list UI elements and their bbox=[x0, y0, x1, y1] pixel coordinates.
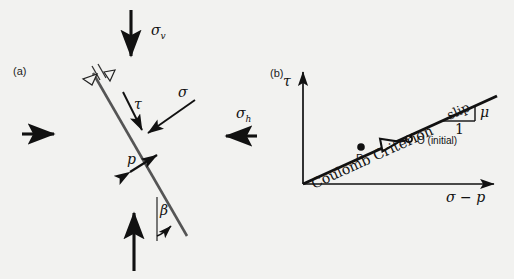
tau-axis-label: τ bbox=[283, 74, 291, 88]
sigma-v-label: σv bbox=[151, 23, 166, 41]
sigma-v-subscript: v bbox=[161, 31, 166, 41]
point-p-label: P bbox=[356, 153, 363, 164]
sigma-h-symbol: σ bbox=[236, 105, 246, 121]
sigma-h-label: σh bbox=[236, 106, 251, 124]
tau-label: τ bbox=[134, 97, 142, 111]
sigma-v-symbol: σ bbox=[151, 22, 161, 38]
sigma-minus-p-axis-label: σ − p bbox=[446, 190, 485, 204]
beta-label: β bbox=[160, 203, 168, 217]
pore-pressure-label: p bbox=[127, 152, 136, 166]
panel-a-tag: (a) bbox=[13, 66, 26, 77]
point-o-label: O (initial) bbox=[417, 136, 457, 146]
sigma-normal-label: σ bbox=[178, 85, 188, 99]
sigma-h-subscript: h bbox=[246, 114, 252, 124]
slope-mu-label: μ bbox=[480, 105, 489, 119]
panel-b-tag: (b) bbox=[270, 68, 283, 79]
slope-run-label: 1 bbox=[455, 122, 464, 136]
sigma-normal-arrow-icon bbox=[148, 100, 195, 133]
point-p-icon bbox=[357, 143, 365, 151]
figure-root: (a) σv σh τ σ p β (b) τ σ − p Coulomb Cr… bbox=[0, 0, 514, 279]
